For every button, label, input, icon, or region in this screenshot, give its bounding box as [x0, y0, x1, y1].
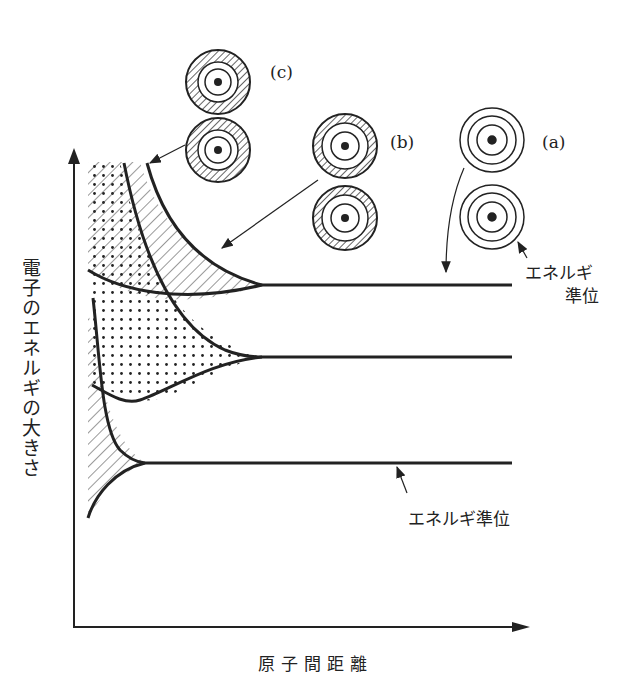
arrow-lower-energy-level — [397, 467, 407, 493]
x-axis — [74, 622, 530, 632]
upper-energy-level-label-line2: 準位 — [565, 285, 599, 307]
y-axis-label: 電子のエネルギの大きさ — [16, 258, 42, 478]
label-b: (b) — [390, 132, 414, 152]
x-axis-label: 原子間距離 — [258, 650, 373, 675]
label-c: (c) — [270, 62, 293, 82]
atom-pair-c — [186, 50, 250, 182]
atom-pair-b — [313, 114, 377, 250]
upper-band-overlap-region — [88, 162, 262, 299]
lower-energy-level-label: エネルギ準位 — [408, 508, 510, 530]
arrow-b-to-band — [222, 180, 318, 248]
y-axis — [68, 148, 80, 628]
arrow-c-to-band — [150, 145, 185, 163]
arrow-upper-energy-level — [518, 242, 527, 258]
upper-energy-level-label-line1: エネルギ — [525, 262, 593, 284]
arrow-a-to-level — [446, 168, 464, 272]
atom-pair-a — [460, 108, 524, 249]
energy-band-diagram — [0, 0, 635, 694]
label-a: (a) — [542, 132, 565, 152]
